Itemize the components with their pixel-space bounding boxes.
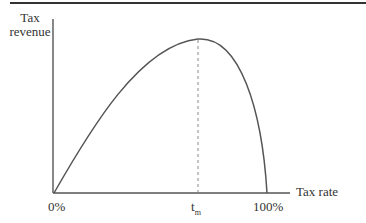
tick-tm: tm [191,200,201,219]
tick-100-percent: 100% [253,200,283,213]
y-axis-label: Tax revenue [8,11,52,39]
laffer-curve [54,39,267,193]
x-axis-label: Tax rate [296,185,338,198]
y-axis-label-line2: revenue [8,25,52,39]
y-axis-label-line1: Tax [8,11,52,25]
tick-0-percent: 0% [48,200,65,213]
tick-tm-subscript: m [195,208,201,217]
